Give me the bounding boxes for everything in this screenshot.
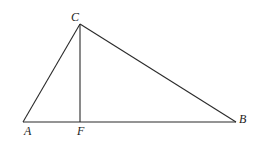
label-f: F: [76, 124, 85, 138]
label-b: B: [239, 112, 247, 126]
label-c: C: [71, 10, 80, 24]
segment-cb: [80, 24, 236, 122]
label-a: A: [23, 124, 32, 138]
segment-ac: [23, 24, 80, 122]
triangle-diagram: A B C F: [0, 0, 267, 148]
